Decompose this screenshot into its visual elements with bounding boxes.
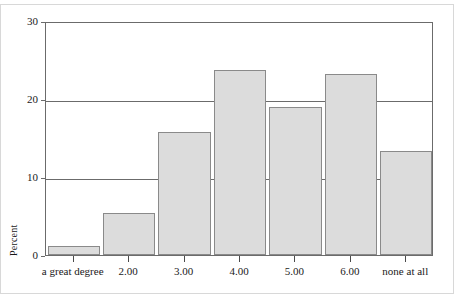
x-tick-mark [184,256,185,262]
bar [269,107,321,255]
bar [48,246,100,255]
x-tick-label: a great degree [42,265,104,278]
bar [158,132,210,255]
y-tick-label: 0 [33,250,39,261]
x-tick-label: 3.00 [174,265,193,278]
bar [380,151,432,255]
y-axis-title: Percent [8,196,24,256]
x-tick-mark [73,256,74,262]
x-tick-mark [350,256,351,262]
x-tick-mark [294,256,295,262]
bar [214,70,266,255]
x-axis-labels: a great degree2.003.004.005.006.00none a… [45,265,433,283]
x-tick-label: 6.00 [340,265,359,278]
x-tick-label: 4.00 [229,265,248,278]
x-tick-mark [239,256,240,262]
bar [103,213,155,255]
bar-chart: 0102030 Percent a great degree2.003.004.… [0,0,456,299]
x-tick-mark [405,256,406,262]
x-axis-ticks [45,256,433,264]
x-tick-label: 2.00 [119,265,138,278]
plot-area [45,22,433,256]
bars-group [46,23,432,255]
y-tick-label: 30 [27,16,38,27]
y-axis-title-label: Percent [8,225,20,256]
bar [325,74,377,255]
x-tick-label: 5.00 [285,265,304,278]
y-tick-label: 20 [27,94,38,105]
x-tick-label: none at all [382,265,428,278]
y-tick-label: 10 [27,172,38,183]
x-tick-mark [128,256,129,262]
